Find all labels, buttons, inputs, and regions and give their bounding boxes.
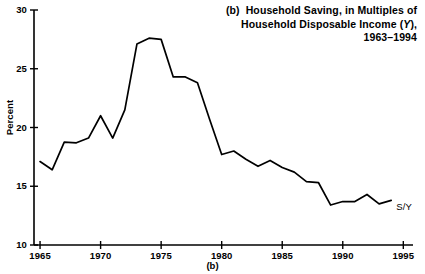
data-series-group (40, 38, 391, 205)
series-line-sy (40, 38, 391, 205)
y-tick-label-20: 20 (5, 122, 27, 133)
chart-title-line-2-a: Household Disposable Income ( (241, 18, 403, 30)
y-tick-label-30: 30 (5, 4, 27, 15)
chart-title-line-2: Household Disposable Income (Y), (226, 18, 417, 32)
axes-group (34, 10, 413, 245)
chart-title: (b) Household Saving, in Multiples of Ho… (226, 4, 417, 45)
chart-title-line-3: 1963–1994 (226, 31, 417, 45)
y-tick-label-25: 25 (5, 63, 27, 74)
chart-title-line-2-b: ), (410, 18, 417, 30)
figure-panel-b: (b) Household Saving, in Multiples of Ho… (0, 0, 425, 274)
y-tick-label-10: 10 (5, 239, 27, 250)
panel-caption: (b) (0, 260, 425, 271)
y-tick-label-15: 15 (5, 180, 27, 191)
chart-title-line-1: (b) Household Saving, in Multiples of (226, 4, 417, 18)
y-axis-title: Percent (4, 88, 15, 148)
chart-title-line-1-text: Household Saving, in Multiples of (246, 4, 417, 16)
chart-title-panel-tag: (b) (226, 4, 240, 16)
series-label-sy: S/Y (396, 201, 412, 212)
